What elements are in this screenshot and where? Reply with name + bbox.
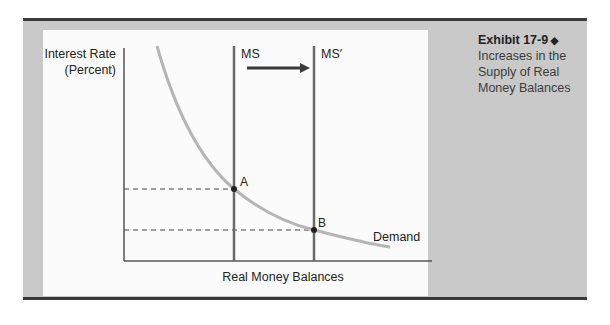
shift-arrow-icon (300, 63, 310, 73)
exhibit-caption: Exhibit 17-9◆ Increases in the Supply of… (478, 32, 588, 96)
diamond-icon: ◆ (550, 34, 558, 46)
y-axis-label-line2: (Percent) (65, 63, 116, 77)
x-axis-label: Real Money Balances (222, 270, 344, 284)
demand-label: Demand (373, 230, 420, 244)
point-b-label: B (318, 216, 326, 230)
point-b-marker (311, 227, 317, 233)
point-a-label: A (240, 175, 248, 189)
exhibit-title: Exhibit 17-9 (478, 33, 548, 47)
y-axis-label-line1: Interest Rate (44, 47, 116, 61)
caption-line-1: Increases in the (478, 48, 588, 64)
ms-prime-label: MS′ (321, 47, 343, 61)
caption-line-3: Money Balances (478, 80, 588, 96)
point-a-marker (231, 186, 237, 192)
ms-label: MS (241, 47, 260, 61)
demand-curve (157, 46, 390, 247)
caption-line-2: Supply of Real (478, 64, 588, 80)
